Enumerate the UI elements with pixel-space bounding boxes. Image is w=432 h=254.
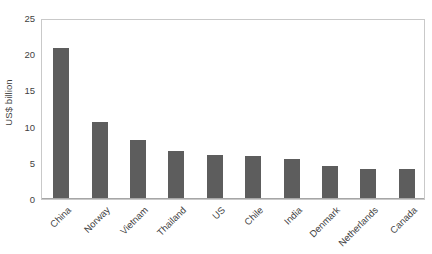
bar: [92, 122, 108, 199]
x-axis-baseline: [42, 198, 424, 199]
plot-area: [41, 19, 425, 200]
bar-chart: US$ billion 2520151050 ChinaNorwayVietna…: [0, 0, 432, 254]
bar-slot: [42, 20, 80, 199]
y-axis-tick-label: 5: [30, 159, 35, 169]
y-axis-tick-label: 0: [30, 195, 35, 205]
bars-layer: [42, 20, 424, 199]
x-axis-tick-label: Thailand: [156, 205, 188, 237]
bar: [207, 155, 223, 199]
bar: [322, 166, 338, 199]
x-axis-tick-label: Denmark: [308, 205, 342, 239]
y-axis-title: US$ billion: [0, 0, 16, 205]
bar-slot: [157, 20, 195, 199]
x-axis-tick-label: India: [282, 205, 303, 226]
y-axis-tick-labels: 2520151050: [16, 19, 38, 200]
bar: [399, 169, 415, 199]
y-axis-tick-label: 15: [24, 87, 35, 97]
bar: [53, 48, 69, 199]
x-axis-tick-label: Vietnam: [118, 205, 149, 236]
y-axis-tick-label: 20: [24, 50, 35, 60]
x-axis-tick-label: Netherlands: [337, 205, 380, 248]
bar-slot: [196, 20, 234, 199]
y-axis-title-label: US$ billion: [3, 79, 14, 126]
bar-slot: [349, 20, 387, 199]
bar-slot: [119, 20, 157, 199]
y-axis-tick-label: 25: [24, 14, 35, 24]
x-axis-tick-label: China: [49, 205, 73, 229]
bar-slot: [311, 20, 349, 199]
bar: [168, 151, 184, 199]
bar: [130, 140, 146, 199]
bar-slot: [388, 20, 426, 199]
bar: [284, 159, 300, 199]
x-axis-tick-label: Chile: [243, 205, 265, 227]
bar-slot: [234, 20, 272, 199]
bar-slot: [80, 20, 118, 199]
x-axis-tick-label: Canada: [388, 205, 418, 235]
bar-slot: [272, 20, 310, 199]
x-axis-tick-label: US: [210, 205, 226, 221]
bar: [245, 156, 261, 199]
bar: [360, 169, 376, 199]
y-axis-tick-label: 10: [24, 123, 35, 133]
x-axis-tick-labels: ChinaNorwayVietnamThailandUSChileIndiaDe…: [41, 201, 425, 254]
x-axis-tick-label: Norway: [82, 205, 111, 234]
